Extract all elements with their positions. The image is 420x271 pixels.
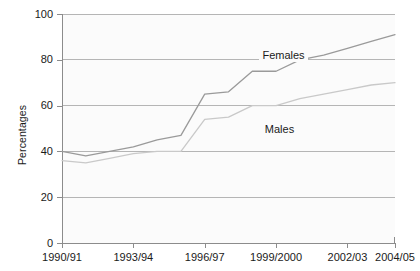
series-label-females: Females <box>259 49 307 62</box>
x-tick-label: 2004/05 <box>350 252 420 263</box>
series-label-males: Males <box>262 123 297 136</box>
y-tick-label: 100 <box>19 9 53 20</box>
y-tick-label: 20 <box>19 192 53 203</box>
y-tick-label: 40 <box>19 146 53 157</box>
series-lines <box>62 35 395 163</box>
series-line-females <box>62 35 395 156</box>
y-tick-label: 80 <box>19 54 53 65</box>
y-tick-label: 60 <box>19 100 53 111</box>
gridlines <box>62 14 395 197</box>
chart-canvas <box>0 0 420 271</box>
y-tick-label: 0 <box>19 238 53 249</box>
line-chart: Percentages 020406080100 1990/911993/941… <box>0 0 420 271</box>
